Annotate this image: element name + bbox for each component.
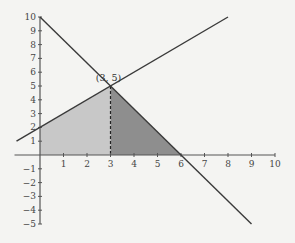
x-tick-label: 6: [178, 159, 184, 169]
x-tick-label: 2: [84, 159, 90, 169]
y-tick-label: −5: [23, 219, 37, 229]
x-tick-label: 10: [269, 159, 281, 169]
y-tick-label: 5: [30, 81, 36, 91]
x-tick-label: 1: [61, 159, 67, 169]
intersection-label: (3, 5): [96, 72, 122, 83]
x-tick-label: 8: [225, 159, 231, 169]
x-tick-label: 5: [155, 159, 161, 169]
y-tick-label: −2: [23, 178, 36, 188]
y-tick-label: 6: [30, 67, 36, 77]
y-tick-label: 7: [30, 53, 36, 63]
y-tick-label: 8: [30, 40, 36, 50]
y-tick-label: 10: [25, 12, 37, 22]
lp-diagram: 1234567891010987654321−1−2−3−4−5(3, 5): [0, 0, 295, 243]
x-tick-label: 3: [108, 159, 114, 169]
y-tick-label: −1: [23, 164, 36, 174]
x-tick-label: 9: [249, 159, 255, 169]
y-tick-label: 3: [30, 109, 36, 119]
y-tick-label: −4: [23, 205, 37, 215]
y-tick-label: −3: [23, 191, 37, 201]
y-tick-label: 9: [30, 26, 36, 36]
y-tick-label: 1: [30, 136, 36, 146]
x-tick-label: 4: [131, 159, 137, 169]
y-tick-label: 4: [30, 95, 36, 105]
x-tick-label: 7: [202, 159, 208, 169]
